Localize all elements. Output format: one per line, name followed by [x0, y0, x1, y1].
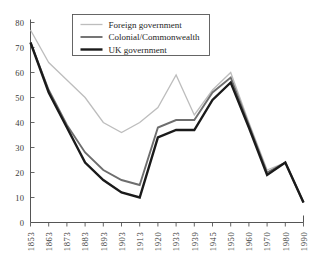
y-tick-label: 80: [15, 18, 24, 28]
x-tick-label: 1990: [299, 232, 309, 252]
series-line: [31, 43, 304, 203]
x-tick-label: 1893: [99, 232, 109, 252]
y-tick-label: 10: [15, 193, 24, 203]
x-tick-label: 1913: [135, 232, 145, 252]
y-tick-label: 70: [15, 43, 24, 53]
x-tick-label: 1950: [226, 232, 236, 252]
y-tick-label: 50: [15, 93, 24, 103]
series-line: [31, 43, 304, 203]
x-tick-label: 1863: [44, 232, 54, 252]
x-tick-label: 1853: [26, 232, 36, 252]
y-axis: 01020304050607080: [15, 18, 34, 228]
x-tick-label: 1960: [244, 232, 254, 252]
chart-legend: Foreign governmentColonial/CommonwealthU…: [73, 15, 210, 56]
x-tick-label: 1980: [281, 232, 291, 252]
y-tick-label: 60: [15, 68, 24, 78]
x-tick-label: 1903: [117, 232, 127, 252]
x-tick-label: 1920: [153, 232, 163, 252]
x-tick-label: 1933: [171, 232, 181, 252]
x-tick-label: 1883: [80, 232, 90, 252]
legend-label: UK government: [109, 45, 168, 55]
x-tick-label: 1873: [62, 232, 72, 252]
legend-label: Colonial/Commonwealth: [109, 32, 200, 42]
chart-container: 01020304050607080 1853186318731883189319…: [0, 0, 316, 266]
y-tick-label: 30: [15, 143, 24, 153]
y-tick-label: 40: [15, 118, 24, 128]
y-tick-label: 20: [15, 168, 24, 178]
x-tick-label: 1970: [262, 232, 272, 252]
line-chart: 01020304050607080 1853186318731883189319…: [0, 0, 316, 266]
x-tick-label: 1945: [208, 232, 218, 252]
y-tick-label: 0: [20, 218, 25, 228]
x-tick-label: 1939: [190, 232, 200, 252]
legend-label: Foreign government: [109, 20, 183, 30]
x-axis: 1853186318731883189319031913192019331939…: [26, 216, 309, 252]
